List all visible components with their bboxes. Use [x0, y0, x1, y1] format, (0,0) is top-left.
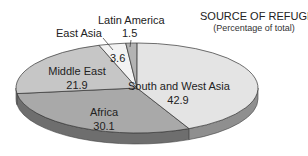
slice-name: South and West Asia [128, 80, 228, 92]
label-latin-america-value: 1.5 [122, 27, 137, 39]
slice-value: 21.9 [37, 79, 117, 91]
slice-name: Africa [74, 106, 134, 118]
label-africa: Africa 30.1 [74, 106, 134, 132]
slice-value: 42.9 [128, 94, 228, 106]
slice-name: Middle East [37, 65, 117, 77]
label-middle-east: Middle East 21.9 [37, 65, 117, 91]
slice-value: 30.1 [74, 120, 134, 132]
label-latin-america-name: Latin America [98, 14, 165, 26]
label-east-asia-name: East Asia [56, 27, 102, 39]
label-south-west-asia: South and West Asia 42.9 [128, 80, 228, 106]
chart-title: SOURCE OF REFUGEES [200, 10, 308, 22]
label-east-asia-value: 3.6 [110, 52, 125, 64]
chart-subtitle: (Percentage of total) [200, 23, 308, 33]
